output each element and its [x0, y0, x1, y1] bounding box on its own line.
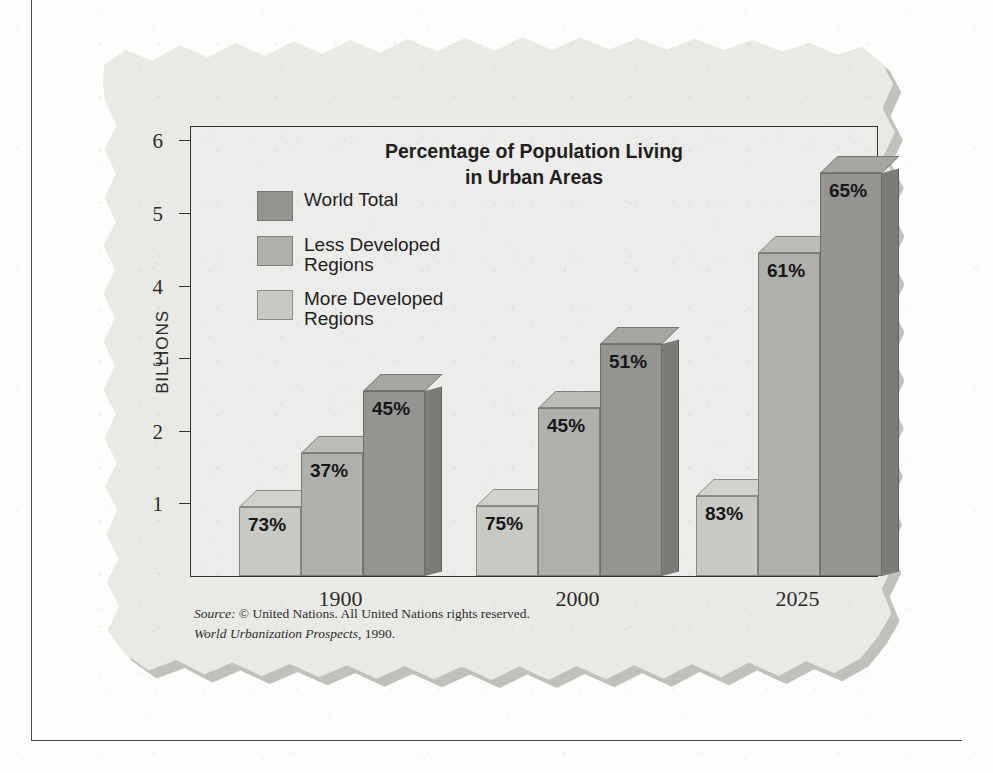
y-axis-tick-5: 5 — [179, 213, 191, 214]
bar-2000-less-developed-regions: 45% — [538, 408, 600, 576]
bar-1900-more-developed-regions: 73% — [239, 507, 301, 576]
y-axis-tick-label-4: 4 — [153, 274, 164, 299]
bar-2000-world-total: 51% — [600, 344, 662, 576]
legend-label-more-developed-line1: More Developed — [304, 288, 443, 309]
chart-title: Percentage of Population Living in Urban… — [191, 139, 877, 190]
bar-side-face — [882, 169, 899, 576]
bar-side-face — [662, 339, 679, 576]
bar-front-face — [820, 173, 882, 576]
bar-2025-less-developed-regions: 61% — [758, 253, 820, 576]
y-axis-tick-1: 1 — [179, 503, 191, 504]
bar-front-face — [758, 253, 820, 576]
x-axis-label-2025: 2025 — [776, 586, 820, 612]
source-line2: World Urbanization Prospects, 1990. — [194, 624, 754, 644]
source-label: Source: — [194, 606, 235, 621]
source-line1: © United Nations. All United Nations rig… — [239, 606, 530, 621]
bar-value-label: 65% — [829, 180, 867, 202]
y-axis-tick-6: 6 — [179, 140, 191, 141]
bar-value-label: 37% — [310, 460, 348, 482]
legend-swatch-more-developed — [257, 290, 293, 320]
legend-label-more-developed-line2: Regions — [304, 309, 443, 329]
bar-side-face — [425, 386, 442, 576]
legend-label-world-total: World Total — [304, 189, 398, 210]
y-axis-tick-label-2: 2 — [153, 419, 164, 444]
legend-item-world-total: World Total — [257, 189, 443, 221]
chart-title-line2: in Urban Areas — [191, 165, 877, 191]
bar-value-label: 73% — [248, 514, 286, 536]
legend-item-less-developed: Less Developed Regions — [257, 234, 443, 275]
y-axis-tick-4: 4 — [179, 286, 191, 287]
chart-legend: World Total Less Developed Regions More … — [257, 189, 443, 343]
chart-title-line1: Percentage of Population Living — [385, 140, 683, 162]
legend-label-less-developed-line1: Less Developed — [304, 234, 440, 255]
bar-top-face — [600, 327, 680, 344]
bar-1900-less-developed-regions: 37% — [301, 453, 363, 576]
bar-value-label: 83% — [705, 503, 743, 525]
bar-value-label: 51% — [609, 351, 647, 373]
y-axis-tick-3: 3 — [179, 358, 191, 359]
bar-value-label: 45% — [372, 398, 410, 420]
bar-front-face — [600, 344, 662, 576]
source-publication: World Urbanization Prospects — [194, 626, 358, 641]
y-axis-tick-label-3: 3 — [153, 347, 164, 372]
bar-value-label: 61% — [767, 260, 805, 282]
bar-value-label: 45% — [547, 415, 585, 437]
legend-item-more-developed: More Developed Regions — [257, 288, 443, 329]
bar-2025-world-total: 65% — [820, 173, 882, 576]
source-note: Source: © United Nations. All United Nat… — [194, 604, 754, 644]
bar-2000-more-developed-regions: 75% — [476, 506, 538, 576]
bar-2025-more-developed-regions: 83% — [696, 496, 758, 576]
legend-swatch-less-developed — [257, 236, 293, 266]
y-axis-tick-2: 2 — [179, 431, 191, 432]
y-axis-tick-label-5: 5 — [153, 202, 164, 227]
legend-label-more-developed: More Developed Regions — [304, 288, 443, 329]
legend-swatch-world-total — [257, 191, 293, 221]
bar-value-label: 75% — [485, 513, 523, 535]
bar-1900-world-total: 45% — [363, 391, 425, 576]
y-axis-tick-label-1: 1 — [153, 492, 164, 517]
source-year: , 1990. — [358, 626, 395, 641]
legend-label-less-developed-line2: Regions — [304, 255, 440, 275]
legend-label-less-developed: Less Developed Regions — [304, 234, 440, 275]
legend-label-world-total-line1: World Total — [304, 189, 398, 210]
y-axis-tick-label-6: 6 — [153, 129, 164, 154]
chart-plot-area: Percentage of Population Living in Urban… — [190, 126, 878, 577]
